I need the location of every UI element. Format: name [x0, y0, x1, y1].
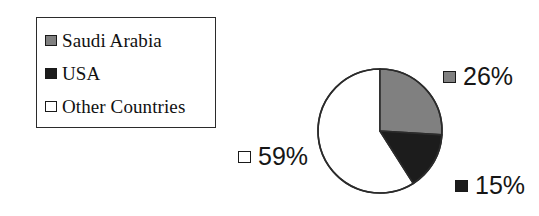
pie-slice-saudi-arabia: [380, 69, 442, 135]
slice-label-usa: 15%: [455, 173, 525, 198]
slice-value-text: 59%: [258, 144, 308, 169]
black-swatch-icon: [455, 180, 468, 192]
gray-swatch-icon: [443, 71, 456, 83]
slice-value-text: 26%: [463, 64, 513, 89]
white-swatch-icon: [238, 151, 251, 163]
slice-label-saudi-arabia: 26%: [443, 64, 513, 89]
pie-chart-figure: Saudi Arabia USA Other Countries: [0, 0, 539, 216]
slice-label-other-countries: 59%: [238, 144, 308, 169]
slice-value-text: 15%: [475, 173, 525, 198]
